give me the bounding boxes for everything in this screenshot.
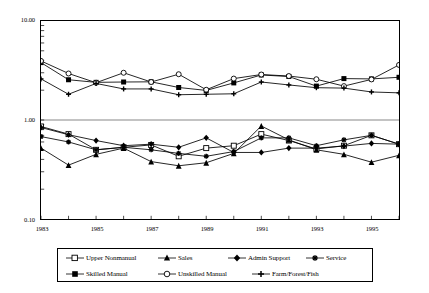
legend-item-farm-forest-fish: Farm/Forest/Fish xyxy=(252,266,319,281)
chart-canvas xyxy=(41,21,399,219)
legend-label-skilled-manual: Skilled Manual xyxy=(86,269,128,279)
plot-area xyxy=(40,20,400,220)
y-axis-label-mid: 1.00 xyxy=(1,116,35,124)
legend-label-unskilled-manual: Unskilled Manual xyxy=(178,269,227,279)
legend-row-2: Skilled Manual Unskilled Manual Farm/For… xyxy=(58,266,372,281)
x-axis-label-1983: 1983 xyxy=(22,225,62,233)
legend-item-admin-support: Admin Support xyxy=(228,250,290,265)
legend-label-upper-nonmanual: Upper Nonmanual xyxy=(86,253,136,263)
x-axis-label-1989: 1989 xyxy=(187,225,227,233)
legend-marker-filled-star-icon xyxy=(306,253,324,263)
legend-item-skilled-manual: Skilled Manual xyxy=(66,266,128,281)
legend-label-service: Service xyxy=(326,253,346,263)
x-axis-label-1993: 1993 xyxy=(297,225,337,233)
legend-row-1: Upper Nonmanual Sales Admin Support Serv… xyxy=(58,250,372,265)
legend-item-sales: Sales xyxy=(158,250,192,265)
legend-item-service: Service xyxy=(306,250,346,265)
legend-label-farm-forest-fish: Farm/Forest/Fish xyxy=(272,269,319,279)
x-axis-label-1985: 1985 xyxy=(77,225,117,233)
legend-marker-filled-square-icon xyxy=(66,269,84,279)
legend-marker-filled-triangle-icon xyxy=(158,253,176,263)
x-axis-label-1987: 1987 xyxy=(132,225,172,233)
legend-label-admin-support: Admin Support xyxy=(248,253,290,263)
y-axis-label-top: 10.00 xyxy=(1,16,35,24)
legend-label-sales: Sales xyxy=(178,253,192,263)
legend-item-unskilled-manual: Unskilled Manual xyxy=(158,266,227,281)
x-axis-label-1995: 1995 xyxy=(352,225,392,233)
y-axis-label-bottom: 0.10 xyxy=(1,216,35,224)
legend-marker-open-square-icon xyxy=(66,253,84,263)
legend-item-upper-nonmanual: Upper Nonmanual xyxy=(66,250,136,265)
chart-figure: 10.00 1.00 0.10 1983 1985 1987 1989 1991… xyxy=(0,0,429,293)
x-axis-label-1991: 1991 xyxy=(242,225,282,233)
legend-marker-plus-icon xyxy=(252,269,270,279)
chart-legend: Upper Nonmanual Sales Admin Support Serv… xyxy=(57,248,373,282)
legend-marker-open-circle-icon xyxy=(158,269,176,279)
legend-marker-filled-diamond-icon xyxy=(228,253,246,263)
